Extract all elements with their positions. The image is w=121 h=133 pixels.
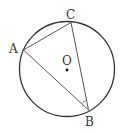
diagram-canvas: A C B O xyxy=(0,0,121,133)
label-c: C xyxy=(66,8,75,22)
label-b: B xyxy=(85,115,94,129)
label-o: O xyxy=(62,54,72,68)
segment-ac xyxy=(24,23,72,51)
label-a: A xyxy=(8,42,18,56)
geometry-diagram: A C B O xyxy=(0,0,121,133)
angle-mark-b xyxy=(82,101,87,104)
center-point-o xyxy=(66,69,69,72)
